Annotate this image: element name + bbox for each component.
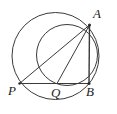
vertex-label-Q: Q xyxy=(51,86,60,99)
vertex-dot-A xyxy=(88,24,91,27)
vertex-label-A: A xyxy=(93,7,101,20)
vertex-label-P: P xyxy=(8,84,16,97)
segment-AB xyxy=(89,25,90,84)
segment-PA xyxy=(20,25,90,84)
small-circle xyxy=(37,25,98,86)
geometry-figure: A B P Q xyxy=(0,0,117,114)
segment-AQ xyxy=(57,25,90,84)
vertex-label-B: B xyxy=(86,85,94,98)
segments-group xyxy=(20,25,90,84)
vertex-dot-P xyxy=(18,82,20,84)
